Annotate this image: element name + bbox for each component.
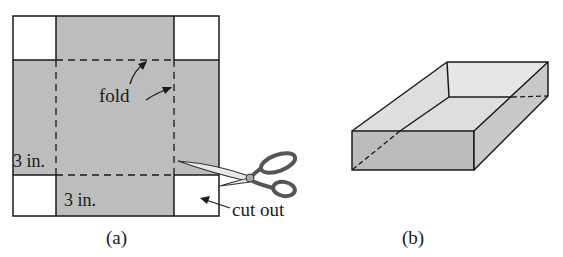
figure-b-caption: (b) [402, 228, 424, 247]
fold-label: fold [99, 86, 130, 105]
figure-a-sheet [13, 16, 230, 216]
bottom-length-label: 3 in. [64, 191, 96, 209]
side-length-label: 3 in. [13, 152, 45, 170]
cut-out-label: cut out [232, 200, 284, 219]
cut-out-arrow-line [206, 200, 230, 208]
box-front-face [352, 131, 474, 170]
figure-b-box [352, 62, 548, 170]
cut-out-arrowhead [200, 196, 210, 204]
figure-a-caption: (a) [106, 228, 127, 247]
